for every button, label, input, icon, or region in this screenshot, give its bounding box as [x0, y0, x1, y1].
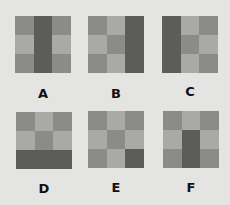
grid-cell — [181, 54, 200, 73]
grid-cell — [199, 54, 218, 73]
option-label-d: D — [16, 181, 72, 196]
option-f[interactable]: F — [163, 111, 221, 168]
grid-cell — [15, 35, 34, 54]
grid-cell — [181, 16, 200, 35]
grid-cell — [53, 131, 72, 150]
option-label-c: C — [162, 84, 218, 99]
pattern-grid-e — [88, 111, 144, 168]
grid-cell — [199, 35, 218, 54]
option-label-a: A — [15, 86, 71, 101]
grid-cell — [107, 149, 126, 168]
grid-cell — [182, 130, 201, 149]
grid-cell — [199, 16, 218, 35]
grid-cell — [162, 54, 181, 73]
grid-cell — [35, 131, 54, 150]
grid-cell — [162, 16, 181, 35]
grid-cell — [53, 112, 72, 131]
option-c[interactable]: C — [162, 16, 220, 73]
pattern-grid-a — [15, 16, 71, 73]
grid-cell — [16, 150, 35, 169]
grid-cell — [163, 130, 182, 149]
grid-cell — [107, 54, 126, 73]
grid-cell — [15, 54, 34, 73]
grid-cell — [88, 130, 107, 149]
grid-cell — [16, 131, 35, 150]
option-a[interactable]: A — [15, 16, 73, 73]
grid-cell — [125, 149, 144, 168]
grid-cell — [163, 149, 182, 168]
grid-cell — [16, 112, 35, 131]
grid-cell — [35, 112, 54, 131]
option-label-b: B — [88, 86, 144, 101]
grid-cell — [200, 111, 219, 130]
option-d[interactable]: D — [16, 112, 74, 169]
grid-cell — [107, 35, 126, 54]
pattern-grid-b — [88, 16, 144, 73]
grid-cell — [35, 150, 54, 169]
grid-cell — [125, 130, 144, 149]
grid-cell — [52, 54, 71, 73]
grid-cell — [182, 149, 201, 168]
grid-cell — [107, 16, 126, 35]
pattern-grid-f — [163, 111, 219, 168]
grid-cell — [88, 111, 107, 130]
grid-cell — [52, 35, 71, 54]
grid-cell — [53, 150, 72, 169]
grid-cell — [182, 111, 201, 130]
grid-cell — [125, 54, 144, 73]
grid-cell — [34, 35, 53, 54]
grid-cell — [125, 16, 144, 35]
grid-cell — [200, 130, 219, 149]
grid-cell — [15, 16, 34, 35]
grid-cell — [162, 35, 181, 54]
grid-cell — [88, 16, 107, 35]
grid-cell — [125, 35, 144, 54]
grid-cell — [181, 35, 200, 54]
grid-cell — [88, 149, 107, 168]
grid-cell — [34, 16, 53, 35]
grid-cell — [163, 111, 182, 130]
grid-cell — [88, 54, 107, 73]
grid-cell — [200, 149, 219, 168]
grid-cell — [52, 16, 71, 35]
option-b[interactable]: B — [88, 16, 146, 73]
grid-cell — [107, 111, 126, 130]
grid-cell — [88, 35, 107, 54]
pattern-grid-c — [162, 16, 218, 73]
option-e[interactable]: E — [88, 111, 146, 168]
pattern-grid-d — [16, 112, 72, 169]
grid-cell — [34, 54, 53, 73]
grid-cell — [107, 130, 126, 149]
grid-cell — [125, 111, 144, 130]
option-label-e: E — [88, 180, 144, 195]
option-label-f: F — [163, 180, 219, 195]
